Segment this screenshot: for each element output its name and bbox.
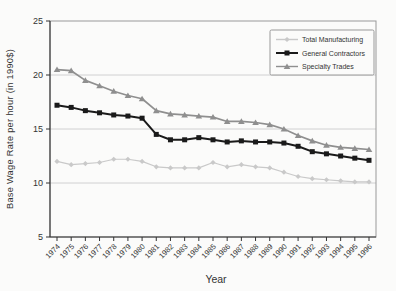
x-tick-label-1977: 1977 [86,242,104,260]
wage-rate-chart-figure: 2520151051974197519761977197819791980198… [0,0,396,291]
x-tick-label-1984: 1984 [185,242,203,260]
plot-area: 2520151051974197519761977197819791980198… [33,16,376,260]
y-tick-label-15: 15 [33,124,43,134]
legend-label-specialty-trades: Specialty Trades [302,63,354,71]
x-tick-label-1990: 1990 [271,242,289,260]
x-tick-label-1975: 1975 [58,242,76,260]
x-tick-label-1985: 1985 [200,242,218,260]
legend-label-general-contractors: General Contractors [302,50,366,57]
x-tick-label-1994: 1994 [327,242,345,260]
x-tick-label-1996: 1996 [356,242,374,260]
x-tick-label-1987: 1987 [228,242,246,260]
series-line-general-contractors [57,105,369,160]
x-tick-label-1978: 1978 [100,242,118,260]
x-tick-label-1995: 1995 [341,242,359,260]
x-tick-label-1992: 1992 [299,242,317,260]
x-tick-label-1982: 1982 [157,242,175,260]
x-tick-label-1983: 1983 [171,242,189,260]
chart-canvas: 2520151051974197519761977197819791980198… [0,0,396,291]
y-tick-label-25: 25 [33,16,43,26]
x-tick-label-1981: 1981 [143,242,161,260]
x-tick-label-1993: 1993 [313,242,331,260]
x-tick-label-1989: 1989 [256,242,274,260]
x-tick-label-1986: 1986 [214,242,232,260]
series-general-contractors [55,103,372,163]
y-axis-title: Base Wage Rate per hour (in 1990$) [5,49,15,209]
series-total-manufacturing [54,157,371,185]
x-tick-label-1979: 1979 [115,242,133,260]
legend: Total ManufacturingGeneral ContractorsSp… [270,30,374,75]
y-tick-label-5: 5 [38,232,43,242]
y-tick-label-20: 20 [33,70,43,80]
x-tick-label-1976: 1976 [72,242,90,260]
y-tick-label-10: 10 [33,178,43,188]
x-tick-label-1988: 1988 [242,242,260,260]
x-tick-label-1974: 1974 [44,242,62,260]
legend-label-total-manufacturing: Total Manufacturing [302,36,363,44]
x-tick-label-1991: 1991 [285,242,303,260]
x-axis-title: Year [205,273,227,285]
x-tick-label-1980: 1980 [129,242,147,260]
